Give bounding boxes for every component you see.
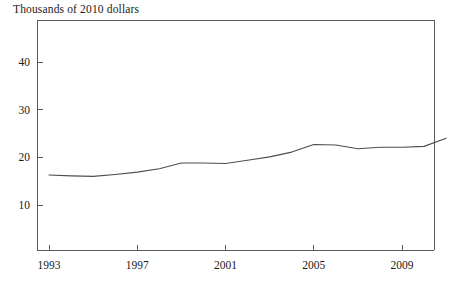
x-axis-ticks (49, 245, 402, 250)
y-axis-tick-label: 40 (4, 56, 30, 68)
chart-figure: Thousands of 2010 dollars 10203040 19931… (0, 0, 458, 285)
x-axis-tick-label: 2005 (294, 259, 334, 271)
data-series-group (49, 138, 446, 176)
y-axis-tick-label: 10 (4, 199, 30, 211)
chart-plot-area (0, 0, 458, 285)
y-axis-ticks (37, 62, 43, 205)
y-axis-tick-label: 20 (4, 151, 30, 163)
x-axis-tick-label: 1997 (117, 259, 157, 271)
x-axis-tick-label: 2009 (382, 259, 422, 271)
x-axis-tick-label: 2001 (206, 259, 246, 271)
y-axis-tick-label: 30 (4, 104, 30, 116)
data-line-thousands-of-2010-dollars (49, 138, 446, 176)
x-axis-tick-label: 1993 (29, 259, 69, 271)
chart-frame (37, 20, 434, 250)
